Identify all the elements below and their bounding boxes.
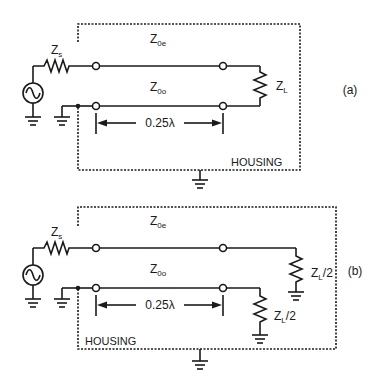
ground-icon	[54, 106, 70, 125]
terminal-icon	[93, 63, 100, 70]
housing-box-a	[78, 24, 300, 170]
source-resistor-icon	[33, 242, 93, 254]
ac-source-icon	[23, 248, 43, 299]
even-mode-impedance-label: Z0e	[150, 214, 167, 230]
terminal-icon	[220, 63, 227, 70]
coupled-line-balun-diagram: Zs ZL Z0e Z0o	[0, 0, 385, 386]
upper-load-resistor-icon	[290, 248, 302, 292]
load-impedance-label: ZL	[276, 79, 288, 95]
terminal-icon	[93, 245, 100, 252]
ground-icon	[25, 117, 41, 125]
diagram-label-a: (a)	[343, 83, 358, 97]
even-mode-impedance-label: Z0e	[150, 32, 167, 48]
ground-icon	[25, 299, 41, 307]
source-impedance-label: Zs	[51, 225, 62, 241]
housing-label: HOUSING	[231, 156, 282, 168]
terminal-icon	[220, 103, 227, 110]
source-impedance-label: Zs	[51, 43, 62, 59]
lower-load-impedance-label: ZL/2	[274, 309, 296, 325]
length-label: 0.25λ	[145, 116, 174, 130]
circuit-a: Zs ZL Z0e Z0o	[23, 24, 357, 188]
load-resistor-icon	[254, 66, 266, 106]
junction-dot	[76, 104, 81, 109]
housing-box-b	[78, 207, 336, 349]
lower-load-resistor-icon	[254, 288, 266, 335]
terminal-icon	[93, 285, 100, 292]
terminal-icon	[220, 245, 227, 252]
terminal-icon	[93, 103, 100, 110]
odd-mode-impedance-label: Z0o	[150, 262, 167, 278]
ground-icon	[192, 170, 208, 188]
circuit-b: Zs ZL/2 ZL/2	[23, 207, 362, 369]
terminal-icon	[220, 285, 227, 292]
ac-source-icon	[23, 66, 43, 117]
odd-mode-impedance-label: Z0o	[150, 80, 167, 96]
ground-icon	[252, 335, 268, 343]
source-resistor-icon	[33, 60, 93, 72]
ground-icon	[54, 288, 70, 307]
housing-label: HOUSING	[85, 335, 136, 347]
ground-icon	[288, 292, 304, 300]
upper-load-impedance-label: ZL/2	[311, 266, 333, 282]
diagram-label-b: (b)	[348, 264, 363, 278]
length-label: 0.25λ	[145, 298, 174, 312]
ground-icon	[192, 349, 208, 369]
junction-dot	[76, 286, 81, 291]
